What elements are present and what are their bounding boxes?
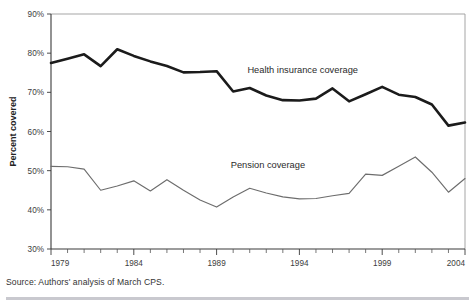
y-tick-label: 60% [28, 128, 44, 137]
series-label-health-insurance: Health insurance coverage [247, 65, 358, 75]
x-tick-label: 1979 [51, 259, 70, 268]
y-axis-title: Percent covered [8, 96, 18, 166]
y-tick-label: 40% [28, 206, 44, 215]
x-tick-label: 2004 [447, 259, 466, 268]
series-label-pension: Pension coverage [231, 160, 305, 170]
line-chart-svg: 30%40%50%60%70%80%90%1979198419891994199… [0, 6, 475, 268]
x-tick-label: 1984 [125, 259, 144, 268]
y-tick-label: 80% [28, 49, 44, 58]
y-tick-label: 50% [28, 167, 44, 176]
x-tick-label: 1994 [290, 259, 309, 268]
x-tick-label: 1989 [207, 259, 226, 268]
source-note: Source: Authors' analysis of March CPS. [6, 277, 164, 287]
x-tick-label: 1999 [373, 259, 392, 268]
y-tick-label: 90% [28, 10, 44, 19]
y-tick-label: 70% [28, 88, 44, 97]
figure-container: 30%40%50%60%70%80%90%1979198419891994199… [0, 0, 475, 306]
series-line-health-insurance [51, 49, 465, 125]
y-tick-label: 30% [28, 245, 44, 254]
chart-area: 30%40%50%60%70%80%90%1979198419891994199… [0, 6, 475, 268]
bottom-divider [6, 297, 469, 300]
